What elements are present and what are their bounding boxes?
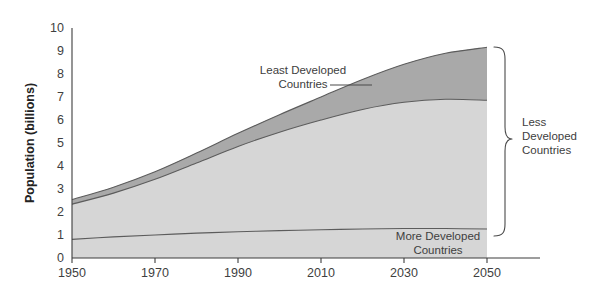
annotation-less-developed-countries: Less Developed Countries [494, 47, 577, 236]
y-tick-labels: 10 9 8 7 6 5 4 3 2 1 0 [50, 21, 64, 265]
x-tick-labels: 1950 1970 1990 2010 2030 2050 [58, 266, 501, 280]
least-developed-label-line2: Countries [278, 78, 327, 90]
y-tick-10: 10 [50, 21, 64, 35]
less-developed-label-line3: Countries [522, 144, 571, 156]
y-tick-4: 4 [57, 159, 64, 173]
less-developed-brace-icon [494, 47, 512, 236]
x-tick-2010: 2010 [307, 266, 335, 280]
more-developed-label-line2: Countries [413, 244, 462, 256]
y-tick-6: 6 [57, 113, 64, 127]
least-developed-label-line1: Least Developed [260, 64, 346, 76]
population-area-chart: 10 9 8 7 6 5 4 3 2 1 0 1950 1970 1990 20… [0, 0, 592, 302]
x-tick-2030: 2030 [390, 266, 418, 280]
y-tick-9: 9 [57, 44, 64, 58]
x-tick-1970: 1970 [141, 266, 169, 280]
y-tick-0: 0 [57, 251, 64, 265]
less-developed-label-line1: Less [522, 116, 547, 128]
less-developed-label-line2: Developed [522, 130, 577, 142]
y-tick-8: 8 [57, 67, 64, 81]
y-tick-1: 1 [57, 228, 64, 242]
x-tick-marks [72, 258, 487, 263]
y-tick-3: 3 [57, 182, 64, 196]
x-tick-2050: 2050 [473, 266, 501, 280]
more-developed-label-line1: More Developed [396, 230, 480, 242]
x-tick-1990: 1990 [224, 266, 252, 280]
y-axis-title: Population (billions) [23, 83, 37, 203]
y-tick-5: 5 [57, 136, 64, 150]
y-tick-7: 7 [57, 90, 64, 104]
chart-canvas: 10 9 8 7 6 5 4 3 2 1 0 1950 1970 1990 20… [0, 0, 592, 302]
y-tick-2: 2 [57, 205, 64, 219]
x-tick-1950: 1950 [58, 266, 86, 280]
